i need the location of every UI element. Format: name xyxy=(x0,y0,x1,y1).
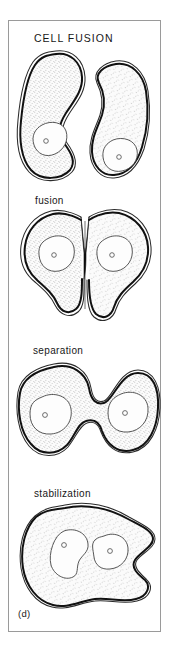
illustration-fusion xyxy=(9,181,162,331)
illustration-separation xyxy=(9,331,162,481)
cell-binucleate-rounded xyxy=(20,503,155,608)
cell-right-stage1 xyxy=(90,61,150,178)
cell-binucleate-waisted xyxy=(17,363,160,455)
illustration-cell-fusion xyxy=(9,21,162,196)
panel-fusion: fusion xyxy=(9,181,162,331)
illustration-stabilization xyxy=(9,476,162,633)
panel-cell-fusion: CELL FUSION xyxy=(9,21,162,196)
plate-tag: (d) xyxy=(18,608,31,619)
cell-fusion-figure: CELL FUSION xyxy=(0,0,170,648)
figure-frame: CELL FUSION xyxy=(8,20,161,632)
panel-stabilization: stabilization xyxy=(9,476,162,633)
cell-left-stage2 xyxy=(21,210,84,315)
panel-separation: separation xyxy=(9,331,162,481)
cell-right-stage2 xyxy=(87,209,151,320)
cell-left-stage1 xyxy=(17,51,85,181)
